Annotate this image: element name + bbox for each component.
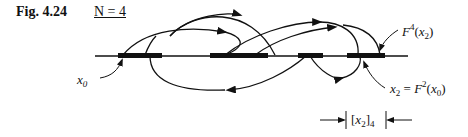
interval-label: [x2]4	[351, 112, 375, 129]
x0-label: x0	[76, 72, 88, 89]
orbit-diagram: x0 F4(x2) x2 = F2(x0) [x2]4	[0, 0, 468, 137]
interval-bar-2	[210, 53, 268, 58]
x2-label: x2 = F2(x0)	[389, 79, 446, 98]
f4-label: F4(x2)	[401, 22, 433, 41]
